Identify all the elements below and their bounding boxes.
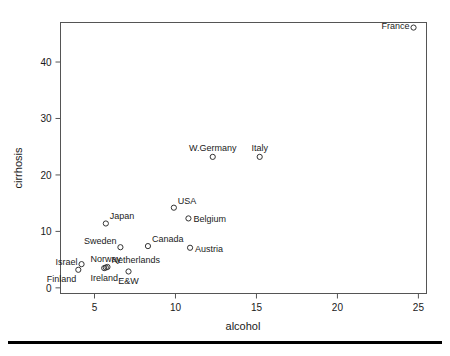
point-label: Austria xyxy=(195,244,223,254)
point-label: Israel xyxy=(56,257,78,267)
y-tick-label: 20 xyxy=(40,170,52,181)
point-label: France xyxy=(382,21,410,31)
x-tick-label: 15 xyxy=(251,302,263,313)
x-tick-label: 10 xyxy=(170,302,182,313)
y-tick-label: 0 xyxy=(46,283,52,294)
y-tick-label: 10 xyxy=(40,226,52,237)
x-axis-title: alcohol xyxy=(226,320,261,332)
x-tick-label: 5 xyxy=(92,302,98,313)
y-tick-label: 40 xyxy=(40,57,52,68)
point-label: Canada xyxy=(152,234,184,244)
point-label: Japan xyxy=(110,211,135,221)
x-tick-label: 25 xyxy=(413,302,425,313)
point-label: E&W xyxy=(118,276,139,286)
y-tick-label: 30 xyxy=(40,113,52,124)
point-label: Italy xyxy=(251,143,268,153)
point-label: Sweden xyxy=(84,236,117,246)
point-label: W.Germany xyxy=(189,143,237,153)
y-axis-title: cirrhosis xyxy=(12,147,24,188)
figure-background xyxy=(0,0,450,356)
point-label: Ireland xyxy=(90,273,118,283)
chart-canvas: 510152025 010203040 FranceItalyW.Germany… xyxy=(0,0,450,356)
point-label: Belgium xyxy=(193,214,226,224)
scatter-plot-figure: 510152025 010203040 FranceItalyW.Germany… xyxy=(0,0,450,356)
point-label: USA xyxy=(178,196,197,206)
point-label: Finland xyxy=(47,274,77,284)
x-tick-label: 20 xyxy=(332,302,344,313)
point-label: Netherlands xyxy=(111,255,160,265)
